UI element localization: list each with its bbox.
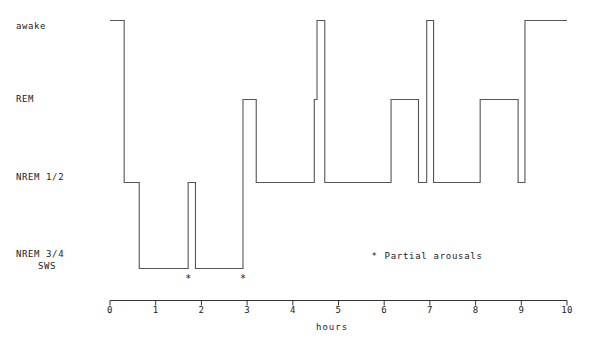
x-axis-tick-label: 9 — [509, 305, 533, 315]
x-axis-tick-label: 3 — [235, 305, 259, 315]
x-axis-tick-label: 8 — [464, 305, 488, 315]
legend-partial-arousals: *Partial arousals — [347, 241, 483, 271]
x-axis-tick-label: 4 — [281, 305, 305, 315]
sleep-stage-trace — [110, 21, 567, 269]
x-axis-tick-label: 10 — [555, 305, 579, 315]
x-axis-title: hours — [316, 322, 348, 332]
x-axis-tick-label: 1 — [144, 305, 168, 315]
hypnogram-plot-svg — [0, 0, 590, 344]
partial-arousal-asterisk-icon: * — [185, 274, 191, 284]
x-axis-tick-label: 6 — [372, 305, 396, 315]
legend-marker-icon: * — [371, 251, 377, 261]
x-axis-tick-label: 5 — [327, 305, 351, 315]
x-axis-tick-label: 2 — [189, 305, 213, 315]
x-axis-tick-label: 0 — [98, 305, 122, 315]
hypnogram-chart: awake REM NREM 1/2 NREM 3/4 SWS 01234567… — [0, 0, 590, 344]
partial-arousal-asterisk-icon: * — [240, 274, 246, 284]
x-axis-tick-label: 7 — [418, 305, 442, 315]
legend-label: Partial arousals — [385, 251, 483, 261]
